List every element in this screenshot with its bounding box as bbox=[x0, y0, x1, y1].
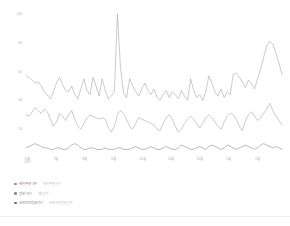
bottom-divider bbox=[0, 216, 290, 217]
x-axis-tick-label: 7월 bbox=[54, 157, 59, 161]
legend-marker-icon bbox=[14, 192, 17, 195]
legend-item-sublabel: 방문건수 bbox=[38, 192, 50, 196]
legend-marker-icon bbox=[14, 202, 17, 205]
x-axis: 6월20237월8월9월10월11월12월1월2월 bbox=[0, 157, 290, 175]
x-axis-tick-label: 8월 bbox=[82, 157, 87, 161]
line-chart-svg bbox=[0, 0, 290, 175]
legend-item-label: 방문 건수 bbox=[19, 192, 32, 196]
legend-item-label: 배달주문 건수 bbox=[19, 182, 37, 186]
series-line-0 bbox=[26, 14, 282, 100]
x-axis-tick-label: 9월 bbox=[111, 157, 116, 161]
legend-marker-icon bbox=[14, 183, 17, 186]
legend-item-label: 오프라인방문 건수 bbox=[19, 201, 43, 205]
legend-item[interactable]: 오프라인방문 건수오프라인방문건수 bbox=[14, 199, 264, 207]
legend-item-sublabel: 오프라인방문건수 bbox=[49, 201, 72, 205]
series-line-2 bbox=[26, 144, 282, 150]
chart-plot-area: 10080604020 6월20237월8월9월10월11월12월1월2월 bbox=[0, 0, 290, 175]
chart-page: 10080604020 6월20237월8월9월10월11월12월1월2월 배달… bbox=[0, 0, 290, 226]
series-line-1 bbox=[26, 103, 282, 132]
legend-item-sublabel: 배달주문건수 bbox=[43, 182, 60, 186]
x-axis-tick-label: 12월 bbox=[196, 157, 202, 161]
x-axis-tick-label: 11월 bbox=[168, 157, 174, 161]
x-axis-tick-label: 2월 bbox=[255, 157, 260, 161]
chart-legend: 배달주문 건수배달주문건수방문 건수방문건수오프라인방문 건수오프라인방문건수 bbox=[14, 180, 264, 209]
x-axis-tick-label: 1월 bbox=[226, 157, 231, 161]
legend-item[interactable]: 배달주문 건수배달주문건수 bbox=[14, 180, 264, 188]
x-axis-tick-label: 10월 bbox=[139, 157, 145, 161]
chart-canvas bbox=[0, 0, 290, 175]
x-axis-tick-label: 6월2023 bbox=[24, 157, 30, 165]
legend-item[interactable]: 방문 건수방문건수 bbox=[14, 190, 264, 198]
x-axis-tick-sublabel: 2023 bbox=[24, 161, 30, 164]
